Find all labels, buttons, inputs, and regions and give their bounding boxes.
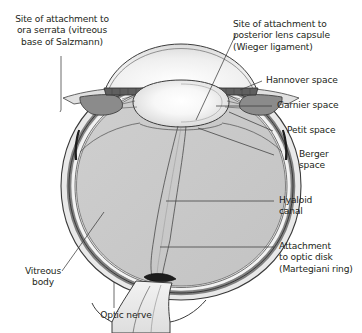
lens	[133, 80, 229, 127]
label-attachment-optic-disk: Attachment to optic disk (Martegiani rin…	[279, 241, 362, 275]
leader-ora-serrata	[60, 56, 61, 112]
label-petit-space: Petit space	[287, 125, 362, 136]
label-hannover-space: Hannover space	[266, 75, 362, 86]
label-ora-serrata-attachment: Site of attachment to ora serrata (vitre…	[2, 14, 122, 48]
label-garnier-space: Garnier space	[277, 100, 362, 111]
label-vitreous-body: Vitreous body	[10, 266, 76, 289]
label-optic-nerve: Optic nerve	[82, 310, 170, 321]
label-posterior-lens-capsule: Site of attachment to posterior lens cap…	[233, 19, 361, 53]
label-hyaloid-canal: Hyaloid canal	[279, 195, 354, 218]
eye-anatomy-figure: Site of attachment to ora serrata (vitre…	[0, 0, 362, 333]
label-berger-space: Berger space	[299, 149, 362, 172]
